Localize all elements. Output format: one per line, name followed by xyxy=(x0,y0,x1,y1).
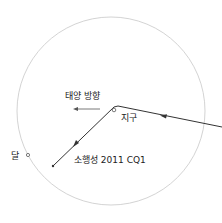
moon-marker-icon xyxy=(26,153,29,156)
earth-label: 지구 xyxy=(121,114,137,123)
earth-marker-icon xyxy=(112,108,116,112)
diagram-canvas xyxy=(0,0,222,223)
asteroid-label: 소행성 2011 CQ1 xyxy=(74,156,146,165)
sun-direction-label: 태양 방향 xyxy=(65,92,100,101)
moon-orbit-circle xyxy=(17,17,205,205)
moon-label: 달 xyxy=(11,152,19,161)
trajectory-endpoint xyxy=(52,165,54,167)
sun-direction-arrow-icon xyxy=(73,107,100,111)
